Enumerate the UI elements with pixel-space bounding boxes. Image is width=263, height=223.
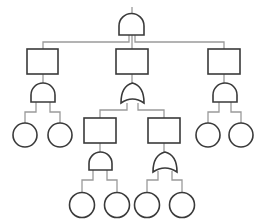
and-gate-icon (31, 83, 55, 102)
basic-event-circle (13, 123, 37, 147)
event-box-center (116, 49, 148, 74)
event-box-left (27, 49, 58, 74)
basic-event-circle (70, 193, 95, 218)
basic-event-circle (229, 123, 253, 147)
or-gate-icon (121, 83, 144, 103)
basic-event-circle (135, 193, 160, 218)
and-gate-icon (89, 152, 112, 170)
basic-event-circle (196, 123, 220, 147)
fault-tree-diagram (0, 0, 263, 223)
event-box-center-right (148, 118, 180, 143)
and-gate-icon (213, 83, 237, 102)
event-box-center-left (84, 118, 116, 143)
event-box-right (208, 49, 240, 74)
and-gate-icon (119, 13, 144, 35)
basic-event-circle (105, 193, 130, 218)
or-gate-icon (153, 152, 177, 172)
basic-event-circle (170, 193, 195, 218)
basic-event-circle (48, 123, 72, 147)
